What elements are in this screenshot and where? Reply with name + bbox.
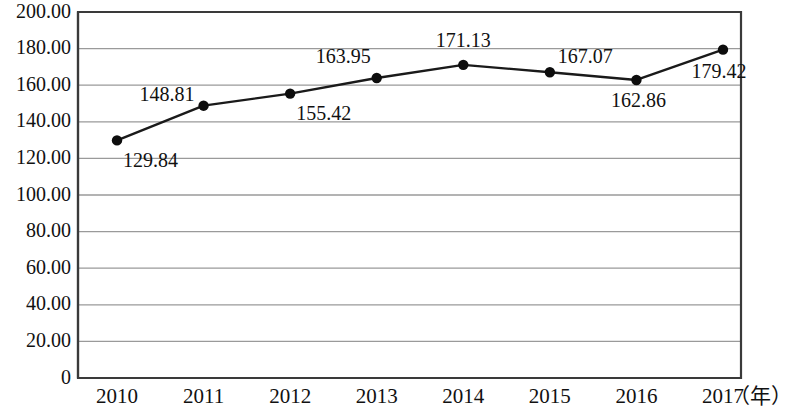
data-point-marker bbox=[372, 73, 382, 83]
data-point-marker bbox=[631, 75, 641, 85]
x-axis-tick-label: 2011 bbox=[183, 384, 224, 408]
x-axis-tick-label: 2014 bbox=[442, 384, 485, 408]
y-axis-tick-label: 60.00 bbox=[26, 256, 71, 278]
y-axis-tick-label: 100.00 bbox=[16, 183, 71, 205]
y-axis-tick-label: 160.00 bbox=[16, 73, 71, 95]
y-axis-tick-label: 40.00 bbox=[26, 292, 71, 314]
x-axis-tick-label: 2013 bbox=[356, 384, 398, 408]
y-axis-tick-label: 140.00 bbox=[16, 109, 71, 131]
data-point-label: 148.81 bbox=[140, 83, 195, 105]
chart-page: 200.00180.00160.00140.00120.00100.0080.0… bbox=[0, 0, 793, 413]
x-axis-tick-label: 2015 bbox=[529, 384, 571, 408]
data-point-label: 163.95 bbox=[316, 45, 371, 67]
x-axis-tick-label: 2012 bbox=[269, 384, 311, 408]
x-axis-tick-label: 2016 bbox=[615, 384, 657, 408]
y-axis-tick-label: 120.00 bbox=[16, 146, 71, 168]
data-point-marker bbox=[198, 100, 208, 110]
data-point-marker bbox=[285, 88, 295, 98]
x-axis-unit: （年） bbox=[729, 384, 792, 408]
line-chart: 200.00180.00160.00140.00120.00100.0080.0… bbox=[0, 0, 793, 413]
y-axis-tick-label: 0 bbox=[61, 366, 71, 388]
y-axis-tick-label: 200.00 bbox=[16, 0, 71, 22]
data-point-marker bbox=[112, 135, 122, 145]
y-axis-tick-label: 180.00 bbox=[16, 36, 71, 58]
data-point-label: 162.86 bbox=[611, 89, 666, 111]
y-axis-tick-label: 20.00 bbox=[26, 329, 71, 351]
y-axis-tick-label: 80.00 bbox=[26, 219, 71, 241]
data-point-marker bbox=[545, 67, 555, 77]
data-point-marker bbox=[718, 44, 728, 54]
x-axis-unit-label: （年） bbox=[729, 384, 792, 408]
data-point-label: 155.42 bbox=[296, 102, 351, 124]
data-point-label: 171.13 bbox=[436, 29, 491, 51]
data-point-label: 167.07 bbox=[558, 45, 613, 67]
chart-background bbox=[0, 0, 793, 413]
data-point-label: 179.42 bbox=[692, 60, 747, 82]
data-point-label: 129.84 bbox=[123, 149, 178, 171]
data-point-marker bbox=[458, 60, 468, 70]
x-axis-tick-label: 2010 bbox=[96, 384, 138, 408]
